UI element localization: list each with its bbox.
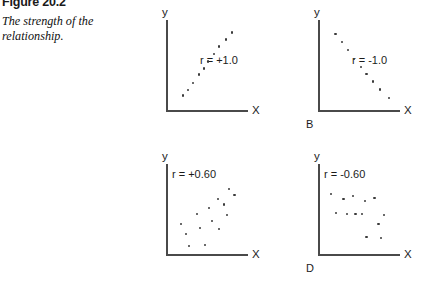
y-axis-label-b: y bbox=[314, 6, 320, 18]
data-point bbox=[334, 33, 336, 35]
scatter-panel-c: y X r = +0.60 bbox=[154, 150, 266, 278]
figure-page: Figure 20.2 The strength of the relation… bbox=[0, 0, 442, 286]
data-point bbox=[231, 31, 233, 33]
y-axis-label-a: y bbox=[162, 6, 168, 18]
scatter-panel-d: y X r = -0.60 D bbox=[306, 150, 418, 278]
figure-caption-text: The strength of the relationship. bbox=[2, 14, 120, 44]
data-point bbox=[211, 220, 213, 222]
data-point bbox=[198, 73, 200, 75]
data-point bbox=[196, 213, 198, 215]
correlation-label-d: r = -0.60 bbox=[324, 168, 365, 180]
data-point bbox=[347, 49, 349, 51]
y-axis-line-d bbox=[318, 164, 320, 256]
data-point bbox=[377, 223, 379, 225]
y-axis-line-c bbox=[166, 164, 168, 256]
data-point bbox=[207, 60, 209, 62]
x-axis-label-d: X bbox=[404, 248, 412, 260]
data-point bbox=[383, 214, 385, 216]
scatter-panel-b: y X r = -1.0 B bbox=[306, 6, 418, 134]
data-point bbox=[380, 237, 382, 239]
plot-area-b: y X r = -1.0 B bbox=[306, 6, 418, 134]
x-axis-line-b bbox=[318, 110, 400, 112]
x-axis-line-c bbox=[166, 254, 248, 256]
data-point bbox=[233, 194, 235, 196]
figure-number: Figure 20.2 bbox=[2, 0, 142, 9]
data-point bbox=[342, 198, 344, 200]
panel-letter-d: D bbox=[306, 262, 314, 274]
plot-area-a: y X r = +1.0 bbox=[154, 6, 266, 134]
data-point bbox=[341, 41, 343, 43]
data-point bbox=[372, 80, 374, 82]
data-point bbox=[354, 213, 356, 215]
data-point bbox=[228, 188, 230, 190]
data-point bbox=[225, 38, 227, 40]
data-point bbox=[346, 213, 348, 215]
y-axis-label-c: y bbox=[162, 150, 168, 162]
x-axis-label-b: X bbox=[404, 104, 412, 116]
figure-caption-block: Figure 20.2 The strength of the relation… bbox=[2, 0, 142, 44]
data-point bbox=[379, 88, 381, 90]
panel-letter-b: B bbox=[306, 118, 313, 130]
data-point bbox=[361, 213, 363, 215]
data-point bbox=[203, 67, 205, 69]
data-point bbox=[360, 66, 362, 68]
data-point bbox=[365, 236, 367, 238]
plot-area-d: y X r = -0.60 D bbox=[306, 150, 418, 278]
data-point bbox=[218, 228, 220, 230]
data-point bbox=[226, 214, 228, 216]
correlation-label-a: r = +1.0 bbox=[200, 54, 238, 66]
data-point bbox=[335, 212, 337, 214]
x-axis-label-a: X bbox=[252, 104, 260, 116]
data-point bbox=[192, 82, 194, 84]
y-axis-label-d: y bbox=[314, 150, 320, 162]
data-point bbox=[217, 198, 219, 200]
data-point bbox=[208, 207, 210, 209]
x-axis-line-d bbox=[318, 254, 400, 256]
plot-area-c: y X r = +0.60 bbox=[154, 150, 266, 278]
data-point bbox=[180, 223, 182, 225]
data-point bbox=[218, 45, 220, 47]
data-point bbox=[364, 200, 366, 202]
data-point bbox=[204, 244, 206, 246]
x-axis-label-c: X bbox=[252, 248, 260, 260]
data-point bbox=[353, 58, 355, 60]
data-point bbox=[388, 97, 390, 99]
correlation-label-b: r = -1.0 bbox=[352, 54, 387, 66]
scatter-panel-a: y X r = +1.0 bbox=[154, 6, 266, 134]
data-point bbox=[182, 94, 184, 96]
x-axis-line-a bbox=[166, 110, 248, 112]
data-point bbox=[365, 73, 367, 75]
data-point bbox=[199, 227, 201, 229]
correlation-label-c: r = +0.60 bbox=[172, 168, 216, 180]
data-point bbox=[185, 233, 187, 235]
data-point bbox=[187, 89, 189, 91]
data-point bbox=[373, 197, 375, 199]
y-axis-line-b bbox=[318, 20, 320, 112]
data-point bbox=[188, 245, 190, 247]
data-point bbox=[352, 195, 354, 197]
y-axis-line-a bbox=[166, 20, 168, 112]
data-point bbox=[223, 203, 225, 205]
data-point bbox=[330, 193, 332, 195]
